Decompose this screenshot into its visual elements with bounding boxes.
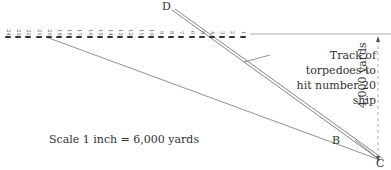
ship-10: 10: [147, 30, 155, 40]
ship-17: 17: [75, 30, 83, 40]
ship-hull-icon: [97, 36, 103, 38]
ship-hull-icon: [117, 36, 123, 38]
ship-hull-icon: [56, 36, 62, 38]
ship-hull-icon: [229, 36, 235, 38]
ship-hull-icon: [158, 36, 164, 38]
ship-hull-icon: [87, 36, 93, 38]
distance-label: 4,000 yards: [356, 42, 369, 108]
ship-20: 20: [45, 30, 53, 40]
ship-22: 22: [24, 30, 32, 40]
ship-hull-icon: [5, 36, 11, 38]
ship-16: 16: [86, 30, 94, 40]
ship-hull-icon: [148, 36, 154, 38]
ship-8: 8: [167, 30, 175, 40]
arrow-up-icon: [376, 36, 380, 42]
caption-leader: [244, 55, 270, 62]
ship-hull-icon: [138, 36, 144, 38]
ship-14: 14: [106, 30, 114, 40]
ship-5: 5: [198, 30, 206, 40]
label-b: B: [332, 134, 340, 147]
ship-21: 21: [35, 30, 43, 40]
ship-12: 12: [126, 30, 134, 40]
ship-hull-icon: [46, 36, 52, 38]
ship-hull-icon: [36, 36, 42, 38]
ship-6: 6: [188, 30, 196, 40]
ship-hull-icon: [209, 36, 215, 38]
ship-hull-icon: [15, 36, 21, 38]
ship-hull-icon: [66, 36, 72, 38]
ship-11: 11: [137, 30, 145, 40]
ship-4: 4: [208, 30, 216, 40]
label-d: D: [162, 0, 171, 13]
ship-hull-icon: [199, 36, 205, 38]
label-c: C: [376, 157, 384, 170]
ship-hull-icon: [178, 36, 184, 38]
ship-13: 13: [116, 30, 124, 40]
ship-1: 1: [239, 30, 247, 40]
ship-7: 7: [177, 30, 185, 40]
ship-3: 3: [218, 30, 226, 40]
ship-24: 24: [4, 30, 12, 40]
ship-9: 9: [157, 30, 165, 40]
ship-hull-icon: [76, 36, 82, 38]
ship-hull-icon: [168, 36, 174, 38]
ship-hull-icon: [219, 36, 225, 38]
ship-19: 19: [55, 30, 63, 40]
ship-2: 2: [228, 30, 236, 40]
torpedo-track-diagram: 242322212019181716151413121110987654321 …: [0, 0, 391, 170]
ship-hull-icon: [127, 36, 133, 38]
ship-hull-icon: [25, 36, 31, 38]
ship-23: 23: [14, 30, 22, 40]
scale-label: Scale 1 inch = 6,000 yards: [49, 133, 199, 146]
ship-hull-icon: [189, 36, 195, 38]
ship-hull-icon: [240, 36, 246, 38]
ship-hull-icon: [107, 36, 113, 38]
ship-15: 15: [96, 30, 104, 40]
ship-18: 18: [65, 30, 73, 40]
